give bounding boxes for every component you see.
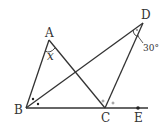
label-E: E <box>134 111 143 125</box>
segment-AC <box>49 40 105 108</box>
label-B: B <box>14 103 23 117</box>
label-D: D <box>141 8 151 22</box>
angle-mark-C1 <box>102 100 104 102</box>
label-A: A <box>44 26 54 40</box>
label-C: C <box>101 111 110 125</box>
angle-mark-C2 <box>112 102 114 104</box>
point-E-dot <box>136 106 140 110</box>
geometry-diagram: A B C D E x 30° <box>0 0 166 126</box>
angle-label-x: x <box>47 49 54 63</box>
angle-mark-D <box>136 29 138 31</box>
angle-label-30: 30° <box>143 43 159 53</box>
angle-leader-D <box>137 35 143 43</box>
segment-AB <box>26 40 49 108</box>
angle-mark-B2 <box>37 103 39 105</box>
angle-mark-B1 <box>32 98 34 100</box>
segment-BD <box>26 23 143 108</box>
